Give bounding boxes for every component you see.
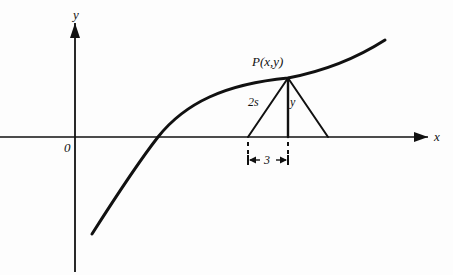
inscribed-triangle	[248, 78, 328, 137]
origin-label: 0	[64, 141, 71, 154]
geometry-diagram: y x 0 P(x,y) 2s y 3	[0, 0, 453, 275]
y-axis-arrowhead	[70, 23, 80, 38]
point-p-label: P(x,y)	[252, 55, 283, 68]
diagram-canvas	[0, 0, 453, 275]
y-axis	[70, 23, 80, 272]
dimension-arrowhead-left	[249, 157, 256, 164]
height-label: y	[290, 96, 295, 108]
x-axis-label: x	[434, 130, 440, 143]
y-axis-label: y	[73, 8, 79, 21]
side-length-label: 2s	[248, 96, 259, 108]
base-dimension-label: 3	[264, 154, 270, 166]
x-axis-arrowhead	[414, 132, 428, 142]
dimension-arrowhead-right	[280, 157, 287, 164]
